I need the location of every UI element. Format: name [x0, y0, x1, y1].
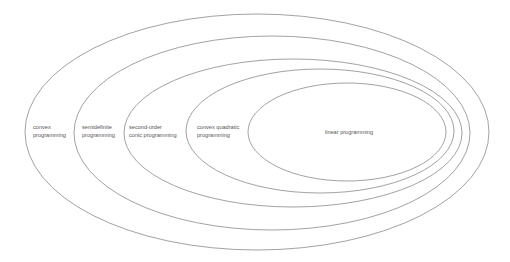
- label-convex-quadratic-programming: convex quadratic programming: [197, 124, 239, 138]
- label-line: convex: [33, 124, 51, 130]
- label-line: programming: [197, 132, 230, 138]
- label-line: programming: [33, 132, 66, 138]
- label-line: conic programming: [129, 132, 177, 138]
- label-line: programming: [82, 132, 115, 138]
- ellipse-convex-quadratic-programming: [186, 69, 454, 193]
- label-line: convex quadratic: [197, 124, 239, 130]
- label-line: linear programming: [325, 129, 373, 135]
- label-semidefinite-programming: semidefinite programming: [82, 124, 115, 138]
- label-line: second-order: [129, 124, 162, 130]
- label-convex-programming: convex programming: [33, 124, 66, 138]
- label-second-order-conic-programming: second-order conic programming: [129, 124, 177, 138]
- label-linear-programming: linear programming: [325, 129, 373, 135]
- label-line: semidefinite: [82, 124, 112, 130]
- nested-set-diagram: convex programming semidefinite programm…: [0, 0, 510, 262]
